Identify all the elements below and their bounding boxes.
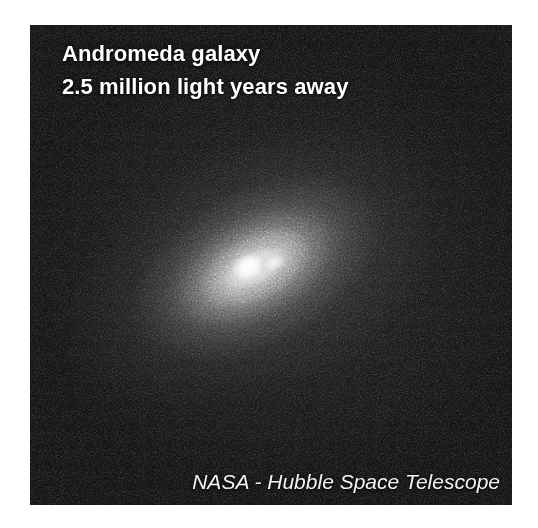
page-root: Andromeda galaxy 2.5 million light years… [0, 0, 538, 528]
photo-credit-line: NASA - Hubble Space Telescope [192, 469, 500, 495]
caption-line-galaxy-name: Andromeda galaxy [62, 37, 348, 70]
caption-line-distance: 2.5 million light years away [62, 70, 348, 103]
photo-caption-title: Andromeda galaxy 2.5 million light years… [62, 37, 348, 103]
andromeda-photograph: Andromeda galaxy 2.5 million light years… [30, 25, 512, 505]
